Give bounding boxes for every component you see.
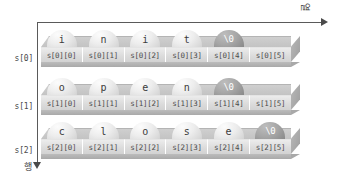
index-cell: s[2][2] xyxy=(125,139,167,154)
row-right-side-face xyxy=(291,128,300,154)
column-axis-line xyxy=(37,22,323,23)
index-cell: s[0][2] xyxy=(125,47,167,62)
row-1-index-cells: s[1][0] s[1][1] s[1][2] s[1][3] s[1][4] … xyxy=(41,95,291,110)
row-axis-line xyxy=(37,22,38,164)
array-row-1: o p e n \0 s[1][0] s[1][1] s[1][2] s[1][… xyxy=(41,78,291,120)
row-bottom-tip xyxy=(291,110,300,115)
row-label-s1: s[1] xyxy=(3,102,33,112)
index-cell: s[0][4] xyxy=(208,47,250,62)
array-row-2: c l o s e \0 s[2][0] s[2][1] s[2][2] s[2… xyxy=(41,122,291,164)
row-bottom-lip xyxy=(41,62,291,67)
index-cell: s[0][5] xyxy=(250,47,291,62)
column-axis-arrow-icon xyxy=(321,18,328,26)
row-bottom-lip xyxy=(41,154,291,159)
index-cell: s[0][3] xyxy=(166,47,208,62)
row-2-index-cells: s[2][0] s[2][1] s[2][2] s[2][3] s[2][4] … xyxy=(41,139,291,154)
index-cell: s[2][3] xyxy=(166,139,208,154)
index-cell: s[2][4] xyxy=(208,139,250,154)
array-row-0: i n i t \0 s[0][0] s[0][1] s[0][2] s[0][… xyxy=(41,30,291,72)
index-cell: s[2][0] xyxy=(41,139,83,154)
index-cell: s[0][0] xyxy=(41,47,83,62)
index-cell: s[2][5] xyxy=(250,139,291,154)
index-cell: s[1][4] xyxy=(208,95,250,110)
index-cell: s[1][0] xyxy=(41,95,83,110)
row-axis-label: 행 xyxy=(21,162,35,172)
index-cell: s[0][1] xyxy=(83,47,125,62)
row-right-side-face xyxy=(291,84,300,110)
index-cell: s[1][2] xyxy=(125,95,167,110)
row-label-s0: s[0] xyxy=(3,54,33,64)
column-axis-label: 열 xyxy=(300,1,310,13)
row-0-index-cells: s[0][0] s[0][1] s[0][2] s[0][3] s[0][4] … xyxy=(41,47,291,62)
index-cell: s[2][1] xyxy=(83,139,125,154)
array-diagram: 열 행 s[0] s[1] s[2] i n i t \0 s[0][0] s[… xyxy=(0,0,337,184)
row-bottom-tip xyxy=(291,62,300,67)
row-bottom-lip xyxy=(41,110,291,115)
row-label-s2: s[2] xyxy=(3,146,33,156)
index-cell: s[1][3] xyxy=(166,95,208,110)
row-right-side-face xyxy=(291,36,300,62)
index-cell: s[1][5] xyxy=(250,95,291,110)
row-bottom-tip xyxy=(291,154,300,159)
index-cell: s[1][1] xyxy=(83,95,125,110)
